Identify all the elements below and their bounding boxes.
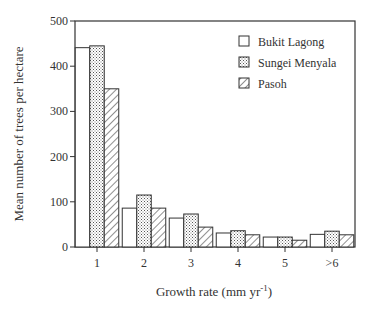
y-tick-label: 100	[50, 195, 68, 209]
bar-pasoh-5	[292, 240, 307, 247]
bar-sungei-menyala-5	[278, 237, 293, 247]
x-tick-label: >6	[326, 256, 339, 270]
legend-label: Bukit Lagong	[258, 35, 324, 49]
legend-swatch-bukit-lagong	[239, 36, 249, 46]
legend-label: Sungei Menyala	[258, 56, 337, 70]
x-axis-label-close: )	[268, 284, 272, 299]
bar-sungei-menyala-3	[184, 214, 199, 247]
x-axis-label-sup: -1	[260, 283, 268, 293]
bar-pasoh-1	[104, 89, 119, 247]
legend-swatch-pasoh	[239, 78, 249, 88]
x-tick-label: 5	[282, 256, 288, 270]
bar-sungei-menyala-6	[325, 231, 340, 247]
legend-swatch-sungei-menyala	[239, 57, 249, 67]
bar-bukit-lagong-2	[122, 208, 137, 247]
bar-sungei-menyala-4	[231, 231, 246, 247]
x-axis-label: Growth rate (mm yr-1)	[156, 283, 272, 299]
x-axis-label-main: Growth rate (mm yr	[156, 284, 261, 299]
y-axis-label: Mean number of trees per hectare	[11, 46, 26, 221]
y-tick-label: 200	[50, 150, 68, 164]
legend-label: Pasoh	[258, 77, 287, 91]
y-axis: 0100200300400500	[50, 14, 75, 254]
bar-pasoh-6	[339, 235, 354, 247]
bar-pasoh-4	[245, 235, 260, 247]
bar-bukit-lagong-1	[75, 48, 90, 247]
x-tick-label: 3	[188, 256, 194, 270]
y-tick-label: 500	[50, 14, 68, 28]
bar-sungei-menyala-1	[90, 46, 105, 247]
bar-bukit-lagong-5	[263, 237, 278, 247]
bar-sungei-menyala-2	[137, 195, 152, 247]
bars-layer	[75, 46, 354, 247]
x-tick-label: 2	[141, 256, 147, 270]
x-tick-label: 4	[235, 256, 241, 270]
x-tick-label: 1	[94, 256, 100, 270]
bar-bukit-lagong-3	[169, 218, 184, 247]
y-tick-label: 400	[50, 59, 68, 73]
bar-pasoh-2	[151, 208, 166, 247]
bar-bukit-lagong-6	[310, 234, 325, 247]
y-tick-label: 0	[62, 240, 68, 254]
legend: Bukit LagongSungei MenyalaPasoh	[239, 35, 337, 91]
x-axis: 12345>6	[94, 247, 338, 270]
bar-pasoh-3	[198, 227, 213, 247]
bar-chart: 0100200300400500 12345>6 Bukit LagongSun…	[0, 0, 368, 314]
bar-bukit-lagong-4	[216, 233, 231, 247]
y-tick-label: 300	[50, 104, 68, 118]
